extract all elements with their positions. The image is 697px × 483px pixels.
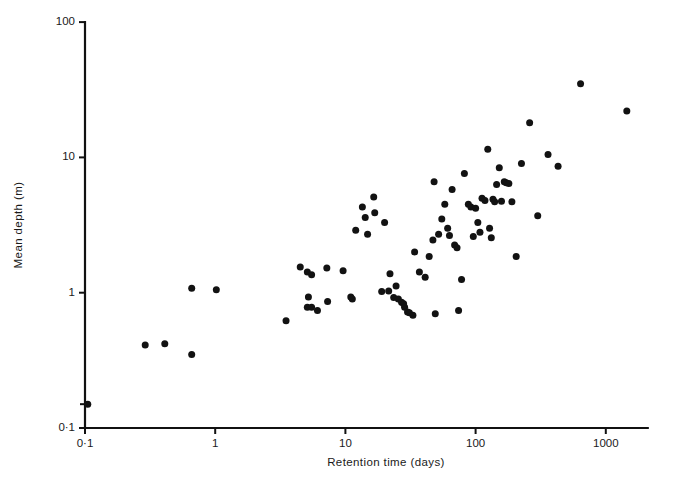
- data-point: [393, 283, 400, 290]
- data-point: [142, 342, 149, 349]
- data-point: [323, 265, 330, 272]
- axis-tick-labels: 0·11101000·11101001000: [56, 15, 619, 449]
- data-point: [481, 197, 488, 204]
- y-axis-title: Mean depth (m): [12, 182, 24, 269]
- data-point: [161, 340, 168, 347]
- data-point: [362, 214, 369, 221]
- data-point: [324, 298, 331, 305]
- data-point: [577, 80, 584, 87]
- data-point: [283, 317, 290, 324]
- x-tick-label-1: 1: [212, 437, 218, 449]
- x-tick-label-2: 10: [339, 437, 352, 449]
- data-point: [409, 312, 416, 319]
- data-point: [385, 287, 392, 294]
- data-point: [518, 160, 525, 167]
- scatter-plot-figure: 0·11101000·11101001000 Retention time (d…: [0, 0, 697, 483]
- data-point: [352, 227, 359, 234]
- data-point: [297, 263, 304, 270]
- data-point: [458, 276, 465, 283]
- x-tick-label-4: 1000: [593, 437, 619, 449]
- data-point: [441, 201, 448, 208]
- data-point: [213, 286, 220, 293]
- data-point: [491, 198, 498, 205]
- data-point: [545, 151, 552, 158]
- data-point: [378, 288, 385, 295]
- data-point: [386, 270, 393, 277]
- data-point: [370, 193, 377, 200]
- data-point: [416, 269, 423, 276]
- data-point: [526, 119, 533, 126]
- data-point: [446, 232, 453, 239]
- data-point: [371, 209, 378, 216]
- plot-canvas: 0·11101000·11101001000 Retention time (d…: [0, 0, 697, 483]
- data-point: [444, 225, 451, 232]
- data-point: [305, 293, 312, 300]
- data-point: [493, 181, 500, 188]
- data-point: [188, 351, 195, 358]
- data-points: [84, 80, 630, 407]
- data-point: [449, 186, 456, 193]
- data-point: [508, 198, 515, 205]
- data-point: [431, 178, 438, 185]
- data-point: [314, 307, 321, 314]
- data-point: [472, 205, 479, 212]
- data-point: [381, 219, 388, 226]
- data-point: [461, 170, 468, 177]
- data-point: [498, 198, 505, 205]
- data-point: [555, 163, 562, 170]
- data-point: [470, 233, 477, 240]
- data-point: [623, 108, 630, 115]
- data-point: [486, 225, 493, 232]
- data-point: [349, 295, 356, 302]
- data-point: [488, 234, 495, 241]
- data-point: [454, 244, 461, 251]
- data-point: [474, 219, 481, 226]
- data-point: [534, 212, 541, 219]
- data-point: [432, 310, 439, 317]
- x-axis-title: Retention time (days): [327, 456, 445, 468]
- data-point: [308, 271, 315, 278]
- data-point: [84, 401, 91, 408]
- data-point: [496, 164, 503, 171]
- data-point: [505, 180, 512, 187]
- data-point: [429, 237, 436, 244]
- data-point: [476, 229, 483, 236]
- axes: [85, 22, 648, 428]
- y-tick-label-0: 0·1: [58, 421, 75, 433]
- data-point: [438, 216, 445, 223]
- y-tick-label-3: 100: [56, 15, 75, 27]
- data-point: [422, 274, 429, 281]
- data-point: [513, 253, 520, 260]
- data-point: [359, 203, 366, 210]
- data-point: [188, 285, 195, 292]
- x-tick-label-3: 100: [466, 437, 485, 449]
- data-point: [411, 248, 418, 255]
- data-point: [455, 307, 462, 314]
- data-point: [364, 231, 371, 238]
- y-tick-label-1: 1: [69, 286, 75, 298]
- axis-ticks: [79, 22, 606, 434]
- data-point: [340, 267, 347, 274]
- data-point: [435, 231, 442, 238]
- data-point: [426, 253, 433, 260]
- y-tick-label-2: 10: [62, 150, 75, 162]
- x-tick-label-0: 0·1: [77, 437, 94, 449]
- data-point: [484, 146, 491, 153]
